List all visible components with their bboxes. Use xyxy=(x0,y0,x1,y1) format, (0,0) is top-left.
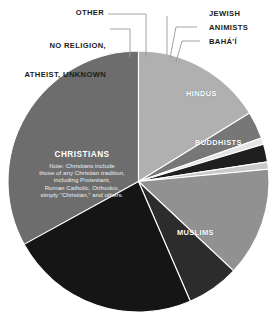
christians-note-line2: those of any Christian tradition, xyxy=(14,169,150,176)
christians-note-line1: Note: Christians include xyxy=(14,162,150,169)
pie-chart-figure: OTHER NO RELIGION, ATHEIST, UNKNOWN JEWI… xyxy=(0,0,278,318)
leader-line-animists xyxy=(170,27,197,58)
callout-label-other: OTHER xyxy=(0,8,104,18)
callout-label-no-religion-line1: NO RELIGION, xyxy=(0,41,106,51)
christians-note-line3: including Protestant, xyxy=(14,176,150,183)
christians-note-line4: Roman Catholic, Orthodox, xyxy=(14,184,150,191)
slice-label-hindus: HINDUS xyxy=(186,89,217,98)
slice-label-christians: CHRISTIANS xyxy=(14,150,150,160)
callout-label-no-religion-line2: ATHEIST, UNKNOWN xyxy=(0,70,106,80)
callout-label-no-religion: NO RELIGION, ATHEIST, UNKNOWN xyxy=(0,22,106,99)
callout-label-jewish: JEWISH xyxy=(209,9,240,19)
christians-note: Note: Christians include those of any Ch… xyxy=(14,162,150,199)
callout-label-animists: ANIMISTS xyxy=(209,23,248,33)
slice-label-buddhists: BUDDHISTS xyxy=(195,138,242,147)
callout-label-bahai: BAHÁ'Í xyxy=(209,37,237,47)
slice-label-christians-block: CHRISTIANS Note: Christians include thos… xyxy=(14,150,150,199)
slice-label-muslims: MUSLIMS xyxy=(177,228,214,237)
christians-note-line5: simply "Christian," and others. xyxy=(14,191,150,198)
